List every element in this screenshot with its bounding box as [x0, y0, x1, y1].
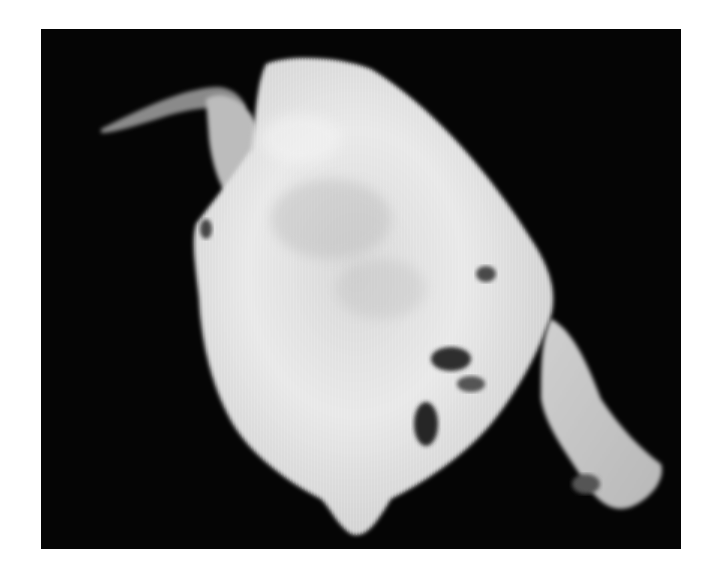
specimen-photograph	[41, 29, 681, 549]
specimen-illustration	[41, 29, 681, 549]
dark-lesion-3	[476, 266, 496, 282]
dark-lesion-2	[414, 402, 438, 446]
dark-lesion-1	[431, 347, 471, 371]
specimen-right-appendage	[541, 319, 662, 509]
